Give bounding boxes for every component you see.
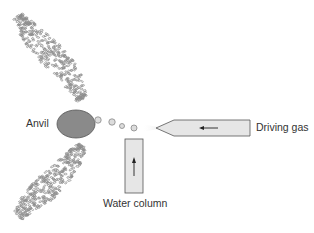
droplet xyxy=(120,124,125,129)
water-column-tube xyxy=(125,139,143,193)
droplet xyxy=(131,125,137,131)
upper-spray-plume xyxy=(13,13,88,102)
anvil-shape xyxy=(57,110,95,138)
anvil-label: Anvil xyxy=(26,117,49,129)
droplet xyxy=(95,117,101,123)
driving-gas-nozzle xyxy=(156,120,250,136)
droplet xyxy=(109,119,115,125)
driving-gas-label: Driving gas xyxy=(256,121,309,133)
droplets xyxy=(95,117,137,131)
lower-spray-plume xyxy=(13,143,86,220)
water-column-label: Water column xyxy=(103,197,167,209)
